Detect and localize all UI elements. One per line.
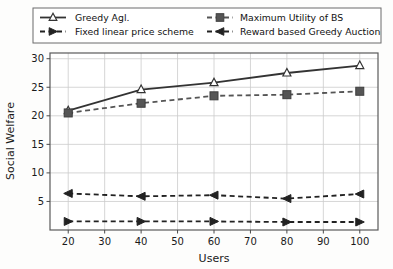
x-tick-label: 30 [98, 236, 111, 247]
legend-label: Reward based Greedy Auction [240, 26, 380, 37]
chart-legend: Greedy Agl.Fixed linear price schemeMaxi… [33, 8, 381, 43]
x-tick-label: 70 [244, 236, 257, 247]
x-tick-label: 60 [208, 236, 221, 247]
data-point-marker [210, 92, 218, 100]
line-chart-svg: 2030405060708090100 51015202530 Users So… [0, 0, 393, 269]
x-tick-label: 20 [62, 236, 75, 247]
y-tick-label: 10 [31, 167, 44, 178]
y-axis-tick-labels: 51015202530 [31, 53, 44, 207]
data-point-marker [137, 99, 145, 107]
x-tick-label: 90 [317, 236, 330, 247]
chart-figure: 2030405060708090100 51015202530 Users So… [0, 0, 393, 269]
legend-label: Greedy Agl. [75, 12, 129, 23]
data-point-marker [216, 14, 224, 22]
data-point-marker [356, 87, 364, 95]
y-tick-label: 20 [31, 110, 44, 121]
y-axis-title: Social Welfare [4, 102, 17, 180]
data-point-marker [283, 91, 291, 99]
y-tick-label: 25 [31, 82, 44, 93]
legend-label: Maximum Utility of BS [240, 12, 343, 23]
data-point-marker [64, 109, 72, 117]
y-tick-label: 30 [31, 53, 44, 64]
x-axis-title: Users [199, 252, 230, 265]
x-tick-label: 40 [135, 236, 148, 247]
x-tick-label: 50 [171, 236, 184, 247]
x-tick-label: 80 [281, 236, 294, 247]
legend-label: Fixed linear price scheme [75, 26, 194, 37]
x-tick-label: 100 [350, 236, 369, 247]
x-axis-tick-labels: 2030405060708090100 [62, 236, 369, 247]
y-tick-label: 15 [31, 139, 44, 150]
y-tick-label: 5 [38, 196, 44, 207]
